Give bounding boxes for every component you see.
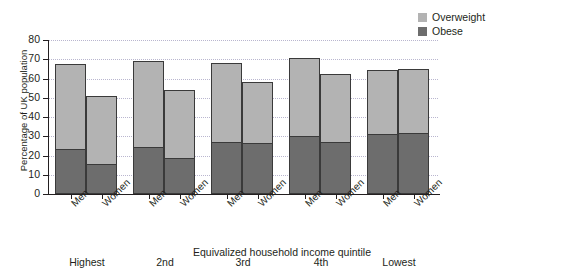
bar-2nd-women bbox=[164, 90, 195, 194]
y-axis-tick-label: 40 bbox=[18, 110, 40, 122]
bar-segment-obese bbox=[212, 142, 241, 193]
bar-series-layer bbox=[48, 40, 438, 194]
bar-segment-obese bbox=[56, 149, 85, 193]
legend-item-obese: Obese bbox=[418, 26, 485, 37]
y-axis-tick-label: 10 bbox=[18, 168, 40, 180]
chart-legend: Overweight Obese bbox=[418, 12, 485, 37]
y-axis-tick-label: 0 bbox=[18, 187, 40, 199]
y-axis-tick-label: 80 bbox=[18, 33, 40, 45]
plot-area bbox=[48, 40, 438, 194]
y-axis-tick-label: 60 bbox=[18, 72, 40, 84]
bar-segment-obese bbox=[290, 136, 319, 193]
bar-2nd-men bbox=[133, 61, 164, 194]
legend-label-obese: Obese bbox=[432, 26, 463, 37]
bar-lowest-men bbox=[367, 70, 398, 194]
bar-4th-women bbox=[320, 74, 351, 194]
bar-highest-women bbox=[86, 96, 117, 194]
legend-item-overweight: Overweight bbox=[418, 12, 485, 23]
bar-segment-obese bbox=[399, 133, 428, 193]
y-axis-tick bbox=[43, 194, 48, 195]
bar-3rd-men bbox=[211, 63, 242, 194]
bar-segment-obese bbox=[368, 134, 397, 193]
bar-lowest-women bbox=[398, 69, 429, 194]
x-axis-title: Equivalized household income quintile bbox=[0, 246, 564, 258]
y-axis-tick-label: 50 bbox=[18, 91, 40, 103]
bar-highest-men bbox=[55, 64, 86, 194]
bar-segment-obese bbox=[321, 142, 350, 193]
y-axis-tick-label: 20 bbox=[18, 149, 40, 161]
bar-4th-men bbox=[289, 58, 320, 194]
legend-label-overweight: Overweight bbox=[432, 12, 485, 23]
bar-segment-obese bbox=[243, 143, 272, 193]
y-axis-tick-label: 70 bbox=[18, 52, 40, 64]
legend-swatch-obese bbox=[418, 27, 427, 36]
bar-3rd-women bbox=[242, 82, 273, 194]
y-axis-tick-label: 30 bbox=[18, 129, 40, 141]
legend-swatch-overweight bbox=[418, 13, 427, 22]
bar-segment-obese bbox=[134, 147, 163, 193]
